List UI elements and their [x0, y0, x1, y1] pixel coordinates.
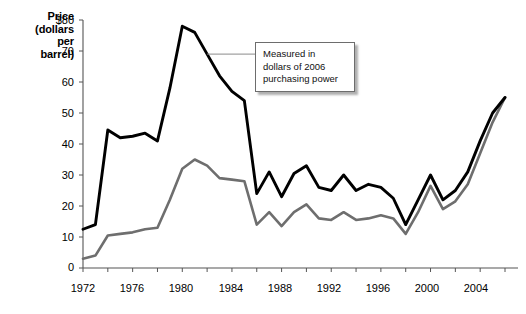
oil-price-line-chart: Price (dollars per barrel) $80 70 60 50 …: [0, 0, 526, 314]
line-series-nominal: [83, 98, 505, 259]
annotation-line-1: Measured in: [263, 48, 347, 61]
annotation-measurement-note: Measured in dollars of 2006 purchasing p…: [255, 42, 355, 92]
annotation-line-3: purchasing power: [263, 73, 347, 86]
x-axis-ticks: [83, 268, 505, 272]
annotation-line-2: dollars of 2006: [263, 61, 347, 74]
y-axis-ticks: [79, 20, 83, 268]
